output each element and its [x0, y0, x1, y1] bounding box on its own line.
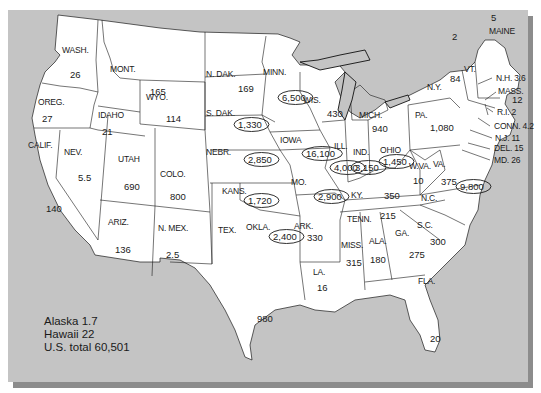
state-value: 2,400 [273, 231, 297, 242]
legend-hawaii: Hawaii 22 [44, 328, 130, 341]
state-value: 2,900 [318, 191, 342, 202]
state-value: 215 [380, 210, 396, 221]
state-abbr: VT. [464, 64, 476, 74]
state-abbr: IDAHO [98, 110, 125, 120]
state-abbr: KY. [351, 190, 363, 200]
state-abbr: CALIF. [28, 140, 52, 150]
state-value: 1,330 [238, 119, 262, 130]
state-abbr: N. MEX. [158, 223, 188, 233]
state-abbr: CONN. 4.2 [494, 121, 534, 131]
state-value: 1,080 [430, 122, 454, 133]
state-value: 27 [42, 113, 53, 124]
state-value: 10 [413, 175, 424, 186]
state-abbr: N.Y. [427, 82, 442, 92]
state-value: 300 [430, 236, 446, 247]
state-abbr: R.I. 2 [497, 107, 517, 117]
state-abbr: KANS. [222, 186, 247, 196]
state-abbr: UTAH [118, 154, 140, 164]
state-value: 16,100 [306, 148, 335, 159]
state-value: 21 [102, 126, 113, 137]
state-value: 315 [346, 257, 362, 268]
state-abbr: FLA. [418, 276, 435, 286]
state-abbr: TEX. [218, 225, 236, 235]
state-value: 136 [115, 244, 131, 255]
state-abbr: MISS. [341, 240, 363, 250]
state-abbr: ILL. [334, 141, 347, 151]
state-abbr: N.J. 11 [495, 133, 520, 143]
state-value: 2.5 [166, 249, 179, 260]
state-abbr: MO. [291, 177, 306, 187]
state-value: 350 [384, 190, 400, 201]
state-abbr: WASH. [62, 45, 89, 55]
state-value: 16 [317, 282, 328, 293]
state-abbr: LA. [313, 267, 325, 277]
state-abbr: MICH. [359, 110, 382, 120]
state-abbr: WIS. [303, 95, 321, 105]
legend-total: U.S. total 60,501 [44, 341, 130, 354]
state-abbr: IOWA [280, 135, 302, 145]
state-abbr: WYO. [146, 92, 168, 102]
state-value: 180 [370, 254, 386, 265]
state-value: 980 [257, 313, 273, 324]
state-abbr: MD. 26 [494, 155, 521, 165]
state-value: 84 [450, 73, 461, 84]
state-value: 690 [124, 181, 140, 192]
state-value: 169 [238, 83, 254, 94]
state-value: 3,150 [355, 162, 379, 173]
state-abbr: S.C. [417, 220, 433, 230]
state-abbr: ARK. [294, 221, 313, 231]
state-abbr: OREG. [38, 97, 64, 107]
state-value: 375 [441, 176, 457, 187]
state-value: 1,450 [383, 156, 407, 167]
state-abbr: OHIO [380, 145, 402, 155]
state-abbr: IND. [353, 147, 369, 157]
state-value: 1,720 [248, 195, 272, 206]
state-abbr: MONT. [110, 64, 135, 74]
state-abbr: W.VA. [409, 161, 431, 171]
state-abbr: N.C. [421, 193, 437, 203]
state-abbr: MINN. [263, 67, 286, 77]
legend: Alaska 1.7 Hawaii 22 U.S. total 60,501 [44, 315, 130, 354]
state-abbr: TENN. [347, 214, 372, 224]
state-abbr: N. DAK. [206, 69, 235, 79]
state-abbr: COLO. [160, 169, 185, 179]
state-value: 9,800 [460, 181, 484, 192]
state-value: 5 [491, 12, 496, 23]
state-value: 20 [430, 333, 441, 344]
state-abbr: DEL. 15 [494, 143, 524, 153]
state-value: 26 [70, 69, 81, 80]
state-value: 330 [307, 232, 323, 243]
state-value: 114 [166, 113, 181, 124]
state-value: 2,850 [248, 154, 272, 165]
state-abbr: MAINE [489, 26, 515, 36]
state-value: 800 [170, 191, 186, 202]
state-value: 2 [452, 31, 457, 42]
state-value: 140 [46, 203, 62, 214]
state-abbr: OKLA. [246, 222, 270, 232]
legend-alaska: Alaska 1.7 [44, 315, 130, 328]
state-value: 12 [512, 94, 523, 105]
state-abbr: N.H. 3.6 [496, 73, 526, 83]
state-value: 275 [409, 249, 425, 260]
state-abbr: ARIZ. [108, 217, 129, 227]
state-abbr: GA. [395, 228, 409, 238]
state-value: 430 [327, 108, 343, 119]
state-value: 940 [372, 123, 388, 134]
state-abbr: S. DAK. [206, 108, 235, 118]
state-abbr: NEBR. [206, 147, 231, 157]
state-abbr: ALA. [369, 236, 387, 246]
state-abbr: NEV. [64, 147, 82, 157]
state-abbr: VA. [433, 159, 445, 169]
state-value: 5.5 [78, 172, 91, 183]
state-abbr: PA. [415, 110, 427, 120]
